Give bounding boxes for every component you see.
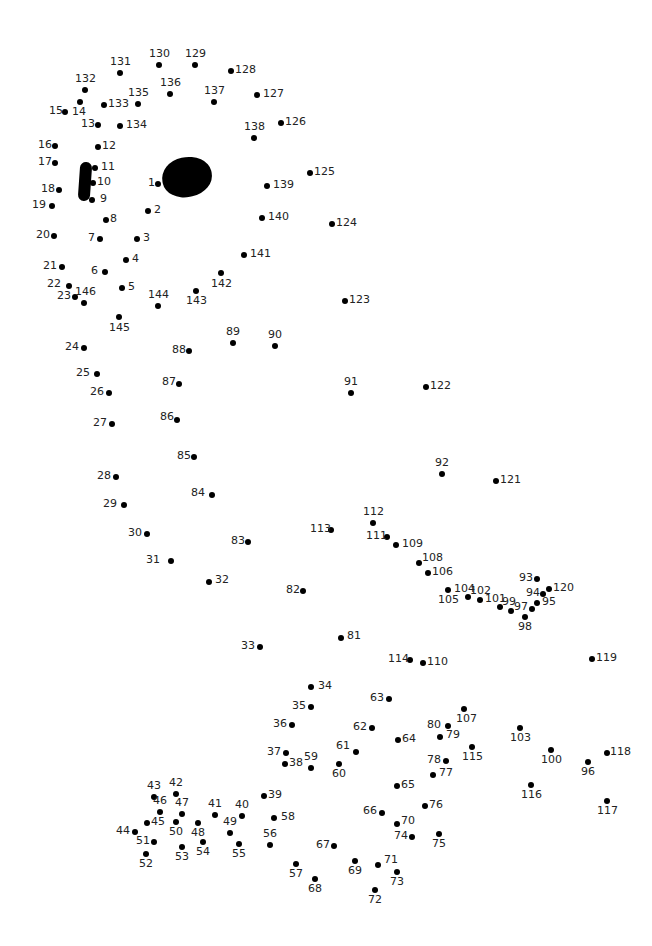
dot-label: 65: [401, 779, 415, 791]
dot-label: 121: [500, 474, 521, 486]
dot-label: 68: [308, 883, 322, 895]
dot-label: 44: [116, 825, 130, 837]
dot-27: [109, 421, 115, 427]
dot-label: 120: [553, 582, 574, 594]
dot-label: 39: [268, 789, 282, 801]
dot-label: 19: [32, 199, 46, 211]
dot-label: 13: [81, 118, 95, 130]
dot-122: [423, 384, 429, 390]
dot-label: 40: [235, 799, 249, 811]
dot-134: [117, 123, 123, 129]
dot-58: [271, 815, 277, 821]
dot-26: [106, 390, 112, 396]
dot-40: [239, 813, 245, 819]
dot-74: [409, 834, 415, 840]
dot-10: [90, 180, 96, 186]
dot-label: 79: [446, 729, 460, 741]
dot-label: 135: [128, 87, 149, 99]
dot-132: [82, 87, 88, 93]
dot-83: [245, 539, 251, 545]
dot-49: [227, 830, 233, 836]
dot-label: 126: [285, 116, 306, 128]
dot-label: 115: [462, 751, 483, 763]
dot-146: [81, 300, 87, 306]
dot-109: [393, 542, 399, 548]
dot-label: 77: [439, 767, 453, 779]
dot-label: 8: [110, 213, 117, 225]
dot-label: 14: [72, 106, 86, 118]
dot-28: [113, 474, 119, 480]
dot-125: [307, 170, 313, 176]
dot-label: 69: [348, 865, 362, 877]
dot-label: 15: [49, 105, 63, 117]
dot-56: [267, 842, 273, 848]
dot-label: 45: [151, 816, 165, 828]
dot-29: [121, 502, 127, 508]
dot-8: [103, 217, 109, 223]
dot-5: [119, 285, 125, 291]
dot-label: 127: [263, 88, 284, 100]
dot-label: 20: [36, 229, 50, 241]
dot-label: 128: [235, 64, 256, 76]
dot-label: 144: [148, 289, 169, 301]
dot-label: 106: [432, 566, 453, 578]
dot-80: [445, 723, 451, 729]
dot-label: 125: [314, 166, 335, 178]
dot-label: 122: [430, 380, 451, 392]
dot-label: 26: [90, 386, 104, 398]
dot-85: [191, 454, 197, 460]
dot-95: [534, 600, 540, 606]
dot-6: [102, 269, 108, 275]
dot-89: [230, 340, 236, 346]
dot-label: 109: [402, 538, 423, 550]
dot-106: [425, 570, 431, 576]
dot-39: [261, 793, 267, 799]
dot-label: 76: [429, 799, 443, 811]
dot-label: 146: [75, 286, 96, 298]
dot-63: [386, 696, 392, 702]
dot-label: 114: [388, 653, 409, 665]
dot-41: [212, 812, 218, 818]
dot-label: 54: [196, 846, 210, 858]
dot-76: [422, 803, 428, 809]
dot-label: 143: [186, 295, 207, 307]
dot-145: [116, 314, 122, 320]
dot-label: 5: [128, 281, 135, 293]
dot-label: 82: [286, 584, 300, 596]
dot-label: 60: [332, 768, 346, 780]
dot-label: 112: [363, 506, 384, 518]
dot-label: 46: [153, 795, 167, 807]
dot-label: 10: [97, 176, 111, 188]
dot-label: 87: [162, 376, 176, 388]
dot-9: [89, 197, 95, 203]
dot-label: 107: [456, 713, 477, 725]
dot-label: 100: [541, 754, 562, 766]
dot-36: [289, 722, 295, 728]
dot-label: 66: [363, 805, 377, 817]
dot-129: [192, 62, 198, 68]
dot-label: 136: [160, 77, 181, 89]
dot-label: 53: [175, 851, 189, 863]
dot-label: 27: [93, 417, 107, 429]
dot-label: 137: [204, 85, 225, 97]
dot-label: 80: [427, 719, 441, 731]
dot-70: [394, 821, 400, 827]
dot-label: 18: [41, 183, 55, 195]
dot-label: 130: [149, 48, 170, 60]
dot-label: 29: [103, 498, 117, 510]
dot-131: [117, 70, 123, 76]
dot-2: [145, 208, 151, 214]
dot-label: 105: [438, 594, 459, 606]
dot-label: 94: [526, 587, 540, 599]
dot-47: [179, 811, 185, 817]
dot-34: [308, 684, 314, 690]
dot-81: [338, 635, 344, 641]
dot-label: 70: [401, 815, 415, 827]
dot-51: [151, 839, 157, 845]
dot-label: 49: [223, 816, 237, 828]
dot-13: [95, 122, 101, 128]
dot-label: 17: [38, 156, 52, 168]
dot-label: 140: [268, 211, 289, 223]
dot-label: 64: [402, 733, 416, 745]
dot-label: 123: [349, 294, 370, 306]
